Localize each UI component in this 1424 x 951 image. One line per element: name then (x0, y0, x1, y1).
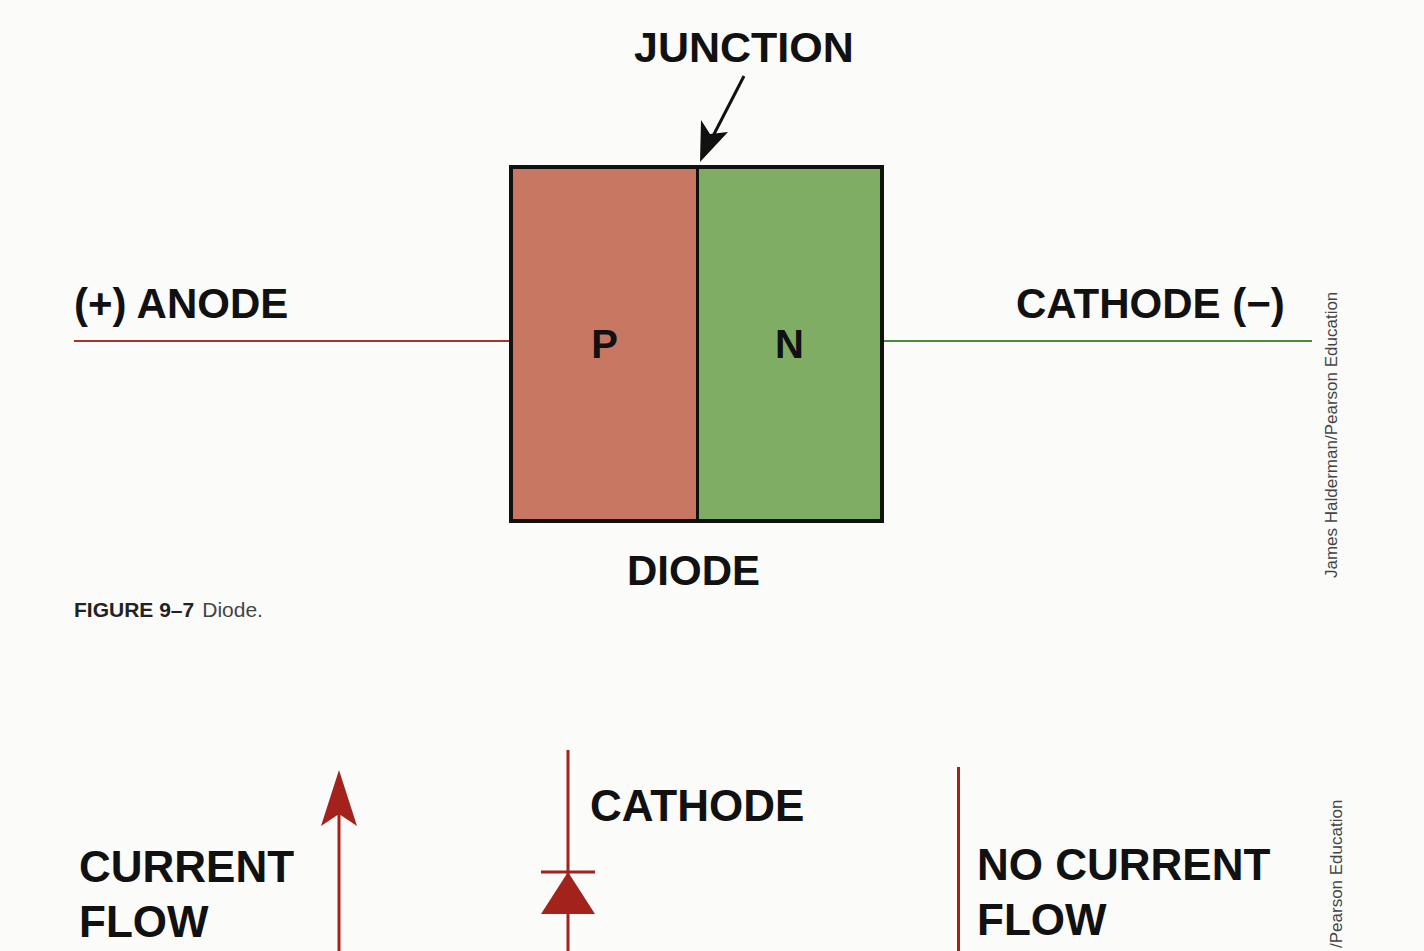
no-current-label-line1: NO CURRENT (977, 843, 1270, 887)
cathode-wire (884, 340, 1312, 342)
current-flow-label-line1: CURRENT (79, 845, 294, 889)
anode-wire (74, 340, 510, 342)
figure-text: Diode. (202, 598, 263, 621)
credit-bottom: /Pearson Education (1327, 800, 1347, 948)
diode-label: DIODE (627, 550, 760, 592)
no-current-label-line2: FLOW (977, 898, 1107, 942)
current-flow-label-line2: FLOW (79, 900, 209, 944)
anode-label: (+) ANODE (74, 283, 288, 325)
credit-top: James Halderman/Pearson Education (1322, 292, 1342, 578)
current-flow-arrow-icon (318, 768, 360, 951)
n-region-label: N (775, 324, 804, 364)
diode-symbol-icon (538, 748, 598, 951)
figure-number: FIGURE 9–7 (74, 598, 194, 621)
junction-label: JUNCTION (634, 26, 854, 69)
figure-caption: FIGURE 9–7Diode. (74, 598, 263, 622)
cathode-symbol-label: CATHODE (590, 784, 804, 828)
pn-junction-block: P N (509, 165, 884, 523)
p-region-label: P (591, 324, 618, 364)
junction-arrow-icon (690, 70, 760, 170)
no-current-line (957, 767, 960, 951)
cathode-label: CATHODE (−) (1016, 283, 1285, 325)
n-region: N (699, 169, 880, 519)
p-region: P (513, 169, 699, 519)
